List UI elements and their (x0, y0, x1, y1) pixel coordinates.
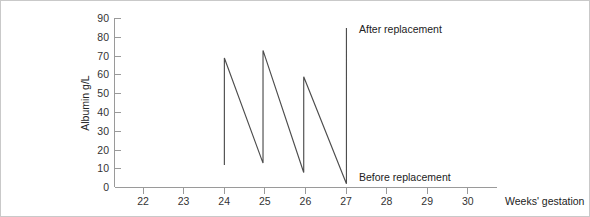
y-tick-label-50: 50 (97, 87, 109, 99)
chart-figure: 90 80 70 60 50 40 30 20 10 0 Albumin g/L (0, 0, 590, 217)
annotation-after-replacement: After replacement (359, 23, 442, 35)
x-tick-label-22: 22 (137, 195, 149, 207)
y-tick-labels: 90 80 70 60 50 40 30 20 10 0 (97, 12, 109, 193)
albumin-series-line (224, 28, 346, 184)
x-tick-label-30: 30 (462, 195, 474, 207)
y-tick-label-80: 80 (97, 31, 109, 43)
y-tick-label-30: 30 (97, 125, 109, 137)
x-axis-title: Weeks' gestation (505, 195, 585, 207)
y-axis-title: Albumin g/L (79, 75, 91, 131)
x-tick-label-27: 27 (340, 195, 352, 207)
x-tick-label-25: 25 (259, 195, 271, 207)
x-tick-label-26: 26 (300, 195, 312, 207)
x-tick-labels: 22 23 24 25 26 27 28 29 30 (137, 195, 474, 207)
y-tick-label-10: 10 (97, 162, 109, 174)
annotation-before-replacement: Before replacement (359, 171, 451, 183)
x-tick-marks (143, 188, 468, 194)
y-tick-label-20: 20 (97, 144, 109, 156)
y-tick-marks (115, 19, 121, 188)
x-tick-label-28: 28 (381, 195, 393, 207)
y-tick-label-90: 90 (97, 12, 109, 24)
x-tick-label-23: 23 (178, 195, 190, 207)
y-tick-label-0: 0 (103, 181, 109, 193)
x-tick-label-29: 29 (421, 195, 433, 207)
y-axis-group: 90 80 70 60 50 40 30 20 10 0 Albumin g/L (79, 12, 121, 193)
albumin-sawtooth-chart: 90 80 70 60 50 40 30 20 10 0 Albumin g/L (1, 1, 590, 217)
y-tick-label-40: 40 (97, 106, 109, 118)
annotations-group: After replacement Before replacement (359, 23, 451, 183)
x-tick-label-24: 24 (218, 195, 230, 207)
y-tick-label-70: 70 (97, 50, 109, 62)
x-axis-group: 22 23 24 25 26 27 28 29 30 Weeks' gestat… (115, 188, 585, 208)
y-tick-label-60: 60 (97, 68, 109, 80)
data-series-group (224, 28, 346, 184)
